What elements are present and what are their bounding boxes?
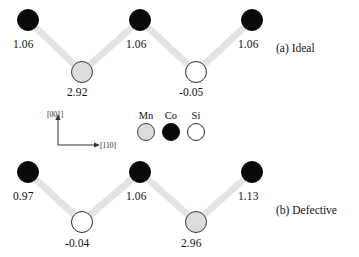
axis-label-110: [110] (100, 141, 116, 150)
figure-canvas: 1.062.921.06-0.051.060.97-0.041.062.961.… (0, 0, 359, 257)
axis-label-001: [001] (47, 110, 63, 119)
crystal-axis-indicator (0, 0, 359, 257)
